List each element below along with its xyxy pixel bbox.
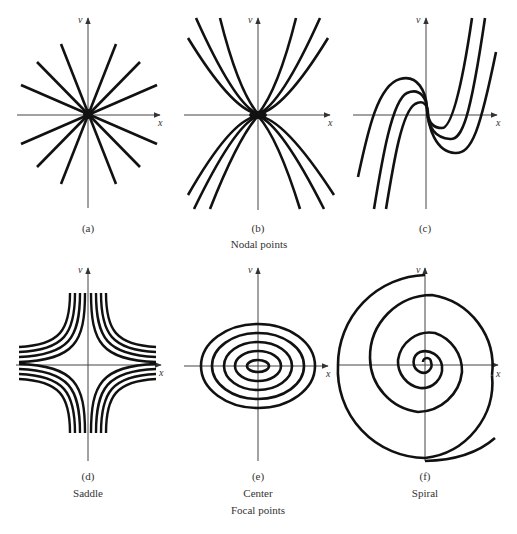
subtitle-spiral: Spiral: [412, 487, 438, 499]
caption-d: (d): [82, 470, 95, 482]
panel-f-spiral-curve: [338, 275, 493, 458]
panel-f-spiral: x v: [338, 264, 501, 461]
subtitle-saddle: Saddle: [73, 487, 103, 499]
panel-a-node-point: [83, 109, 93, 119]
panel-e-x-label: x: [325, 368, 331, 379]
panel-f-y-label: v: [416, 264, 421, 275]
caption-e: (e): [252, 470, 264, 482]
panel-f-x-label: x: [495, 368, 501, 379]
panel-b-improper-node: x v: [184, 14, 334, 210]
panel-d-y-label: v: [78, 264, 83, 275]
caption-f: (f): [420, 470, 431, 482]
panel-d-saddle: x v: [16, 264, 164, 461]
subtitle-center: Center: [243, 487, 272, 499]
panel-c-trajectories: [358, 18, 496, 209]
panel-b-node-point: [249, 111, 267, 119]
panel-f-spiral-tail: [425, 438, 495, 461]
caption-b: (b): [252, 222, 265, 234]
panel-a-x-label: x: [157, 117, 163, 128]
group-label-focal-points: Focal points: [231, 504, 285, 516]
panel-a-y-label: v: [78, 14, 83, 25]
caption-c: (c): [419, 222, 431, 234]
figure-canvas: x v x v: [0, 0, 517, 534]
panel-d-x-label: x: [158, 367, 164, 378]
phase-portrait-figure: x v x v: [0, 0, 517, 534]
panel-b-x-label: x: [327, 117, 333, 128]
panel-e-axes: [184, 268, 328, 461]
panel-e-y-label: v: [248, 264, 253, 275]
group-label-nodal-points: Nodal points: [231, 238, 288, 250]
panel-c-x-label: x: [495, 117, 501, 128]
panel-b-y-label: v: [248, 14, 253, 25]
panel-a-star-node: x v: [17, 14, 163, 208]
panel-e-center: x v: [184, 264, 331, 461]
caption-a: (a): [82, 222, 94, 234]
panel-c-degenerate-node: x v: [353, 14, 501, 209]
panel-c-y-label: v: [416, 14, 421, 25]
